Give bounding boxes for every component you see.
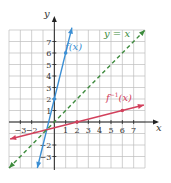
f-inverse-label-tail: (x) xyxy=(119,92,133,103)
x-tick-label: −3 xyxy=(14,126,26,135)
y-tick-label: 5 xyxy=(46,61,51,70)
arrowhead-icon xyxy=(139,28,147,36)
x-tick-label: 2 xyxy=(74,126,79,135)
data-point-f-1-x xyxy=(121,109,125,113)
y-tick-label: 3 xyxy=(46,84,51,93)
x-tick-label: 1 xyxy=(63,126,68,135)
x-tick-label: 4 xyxy=(97,126,102,135)
y-equals-x-label-text: y = x xyxy=(103,28,130,39)
x-axis-label: x xyxy=(156,122,162,133)
y-tick-label: 4 xyxy=(46,72,51,81)
f-label-text: f(x) xyxy=(64,41,82,52)
data-point-f-x xyxy=(53,97,57,101)
x-tick-label: 7 xyxy=(131,126,136,135)
y-tick-label: 6 xyxy=(46,49,51,58)
arrowhead-icon xyxy=(7,162,15,170)
y-tick-label: −2 xyxy=(40,141,52,150)
function-inverse-chart: −3−212345677654321−2−3 x y f(x) y = x f−… xyxy=(0,0,171,183)
y-tick-label: 2 xyxy=(46,95,51,104)
f-inverse-label-sup: −1 xyxy=(110,91,119,98)
y-axis-label: y xyxy=(43,8,50,19)
x-tick-label: 6 xyxy=(120,126,125,135)
x-tick-label: 3 xyxy=(86,126,91,135)
x-tick-label: 5 xyxy=(108,126,113,135)
y-tick-label: 7 xyxy=(46,38,51,47)
f-label: f(x) xyxy=(64,41,82,52)
y-axis-arrow-icon xyxy=(52,16,57,22)
data-point-f-1-x xyxy=(75,120,79,124)
f-inverse-label: f−1(x) xyxy=(105,91,132,103)
y-equals-x-label: y = x xyxy=(103,28,130,39)
